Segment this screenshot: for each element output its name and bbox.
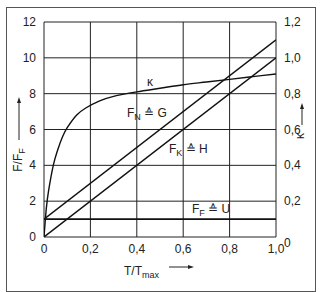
y-right-tick-label: 0,8 xyxy=(284,87,301,101)
x-axis-label-sub: max xyxy=(142,270,160,280)
annotation-ff-u: FF ≙ U xyxy=(192,202,230,218)
x-tick-label: 0,4 xyxy=(128,242,145,256)
x-tick-label: 0,2 xyxy=(82,242,99,256)
y-right-tick-label: 0,4 xyxy=(284,158,301,172)
annotation-fn-g: FN ≙ G xyxy=(127,106,167,122)
y-left-label-main: F/F xyxy=(11,154,25,172)
y-left-tick-label: 8 xyxy=(29,87,36,101)
x-arrow-head xyxy=(188,265,194,269)
y-right-tick-label: 0,2 xyxy=(284,194,301,208)
series-group xyxy=(44,40,276,237)
x-tick-label: 0,6 xyxy=(175,242,192,256)
y-left-tick-label: 2 xyxy=(29,194,36,208)
x-tick-label: 0,8 xyxy=(221,242,238,256)
annotation-kappa: κ xyxy=(147,75,154,89)
x-axis-label: T/Tmax xyxy=(124,264,160,280)
svg-text:F/FF: F/FF xyxy=(11,148,27,172)
y-left-tick-label: 6 xyxy=(29,123,36,137)
y-left-tick-label: 10 xyxy=(23,51,37,65)
series-kappa xyxy=(44,74,276,237)
x-tick-label: 0 xyxy=(41,242,48,256)
y-right-tick-label: 1,0 xyxy=(284,51,301,65)
x-axis-label-main: T/T xyxy=(124,264,143,278)
y-left-label-sub: F xyxy=(17,148,27,154)
y-right-arrow-head xyxy=(300,103,304,109)
y-left-arrow-head xyxy=(17,97,21,103)
y-left-tick-label: 12 xyxy=(23,15,37,29)
series-fk-h xyxy=(44,58,276,237)
x-tick-label: 1,0 xyxy=(268,242,285,256)
y-left-tick-label: 4 xyxy=(29,158,36,172)
y-left-label: F/FF xyxy=(11,148,27,172)
y-right-label-text: κ xyxy=(293,132,307,139)
annotation-fk-h: FK ≙ H xyxy=(169,142,208,158)
y-right-label: κ xyxy=(293,132,307,139)
y-right-tick-label: 0 xyxy=(284,236,291,250)
y-left-tick-label: 0 xyxy=(29,230,36,244)
y-right-tick-label: 1,2 xyxy=(284,15,301,29)
